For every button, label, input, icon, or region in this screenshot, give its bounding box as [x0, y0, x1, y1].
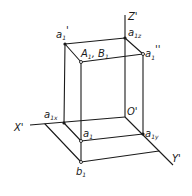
edge-a1z-a1dprime — [125, 38, 143, 54]
label-x-axis: X' — [13, 122, 24, 133]
label-A1B1: A1, B1 — [80, 48, 109, 60]
point-b1 — [80, 161, 83, 164]
point-a1x — [62, 121, 65, 124]
label-a1prime: a1' — [56, 25, 69, 41]
point-a1z — [123, 36, 126, 39]
label-a1x: a1x — [44, 109, 58, 121]
edge-a1prime-a1z — [65, 38, 125, 44]
label-a1dprime: a1'' — [145, 44, 160, 61]
edge-a1prime-A1 — [65, 44, 81, 62]
axonometric-diagram: Z' X' Y' O' a1' a1z A1, B1 a1'' a1x a1 a… — [0, 0, 192, 196]
label-y-axis: Y' — [172, 153, 181, 164]
point-a1 — [80, 140, 83, 143]
label-z-axis: Z' — [127, 11, 138, 22]
edge-b1-y — [81, 151, 159, 162]
label-a1: a1 — [83, 128, 93, 140]
edge-x-b1 — [45, 124, 81, 162]
edge-a1x-a1 — [64, 123, 81, 141]
edge-a1prime-a1x — [64, 44, 65, 123]
y-axis — [125, 117, 173, 165]
point-A1B1 — [80, 61, 83, 64]
label-b1: b1 — [76, 166, 86, 178]
label-a1z: a1z — [128, 27, 142, 39]
point-a1prime — [63, 42, 66, 45]
label-origin: O' — [127, 106, 138, 117]
